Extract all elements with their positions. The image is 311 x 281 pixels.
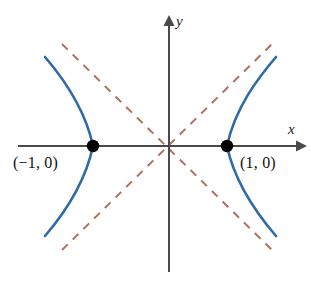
y-axis-label: y — [176, 14, 183, 29]
left-vertex-label: (−1, 0) — [13, 155, 58, 171]
x-axis-label: x — [288, 122, 295, 137]
right-vertex-label: (1, 0) — [240, 155, 276, 171]
left-vertex-dot — [87, 140, 99, 152]
y-axis-arrowhead — [164, 15, 175, 26]
hyperbola-figure — [0, 0, 311, 281]
x-axis-arrowhead — [296, 141, 307, 152]
right-vertex-dot — [221, 140, 233, 152]
